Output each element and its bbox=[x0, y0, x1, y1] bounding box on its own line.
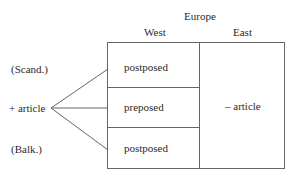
column-header-east: East bbox=[233, 27, 252, 38]
cell-west-row3: postposed bbox=[124, 143, 168, 154]
header-title: Europe bbox=[184, 11, 216, 22]
cell-west-row1: postposed bbox=[124, 62, 168, 73]
column-header-west: West bbox=[144, 27, 166, 38]
label-balkan: (Balk.) bbox=[11, 144, 42, 155]
label-plus-article: + article bbox=[9, 103, 45, 114]
label-scandinavian: (Scand.) bbox=[11, 64, 48, 75]
cell-east: – article bbox=[225, 101, 261, 112]
cell-west-row2: preposed bbox=[124, 102, 164, 113]
branch-line-bottom bbox=[51, 108, 108, 150]
branch-line-top bbox=[51, 69, 108, 108]
